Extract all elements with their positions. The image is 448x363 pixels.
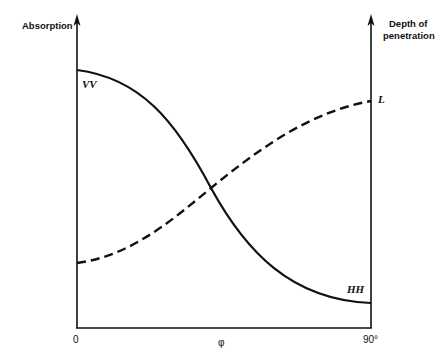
left-axis-title: Absorption [22,20,73,32]
x-tick-max: 90° [363,334,378,345]
l-curve [77,101,371,263]
right-axis-title-line2: penetration [383,30,435,42]
chart-canvas [0,0,448,363]
vv-label: VV [82,78,97,90]
vv-hh-curve [77,70,371,303]
l-label: L [378,93,385,105]
right-axis-title-line1: Depth of [383,18,435,30]
hh-label: HH [347,283,364,295]
x-tick-min: 0 [73,334,79,345]
x-axis-variable: φ [218,337,224,348]
right-axis-title: Depth of penetration [383,18,435,42]
